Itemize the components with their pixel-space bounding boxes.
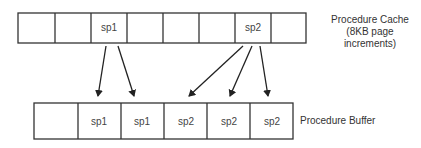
- arrow-icon: [118, 46, 134, 96]
- cache-cell-sp1: sp1: [101, 22, 118, 33]
- procedure-cache-row: [18, 13, 306, 43]
- procedure-buffer-label: Procedure Buffer: [300, 115, 375, 127]
- procedure-cache-label: Procedure Cache (8KB page increments): [322, 14, 418, 50]
- procedure-cache-subtitle: (8KB page increments): [322, 26, 418, 50]
- buffer-cell-sp1: sp1: [134, 116, 151, 127]
- buffer-cell-sp2: sp2: [264, 116, 281, 127]
- buffer-cell-sp1: sp1: [91, 116, 108, 127]
- arrow-icon: [189, 46, 243, 96]
- arrow-icon: [230, 46, 252, 96]
- mapping-arrows: [98, 46, 268, 96]
- cache-frame: [18, 13, 306, 43]
- arrow-icon: [98, 46, 106, 96]
- cache-cell-sp2: sp2: [245, 22, 262, 33]
- arrow-icon: [260, 46, 268, 96]
- buffer-cell-sp2: sp2: [221, 116, 238, 127]
- procedure-buffer-row: [34, 103, 293, 139]
- buffer-cell-sp2: sp2: [178, 116, 195, 127]
- procedure-cache-title: Procedure Cache: [322, 14, 418, 26]
